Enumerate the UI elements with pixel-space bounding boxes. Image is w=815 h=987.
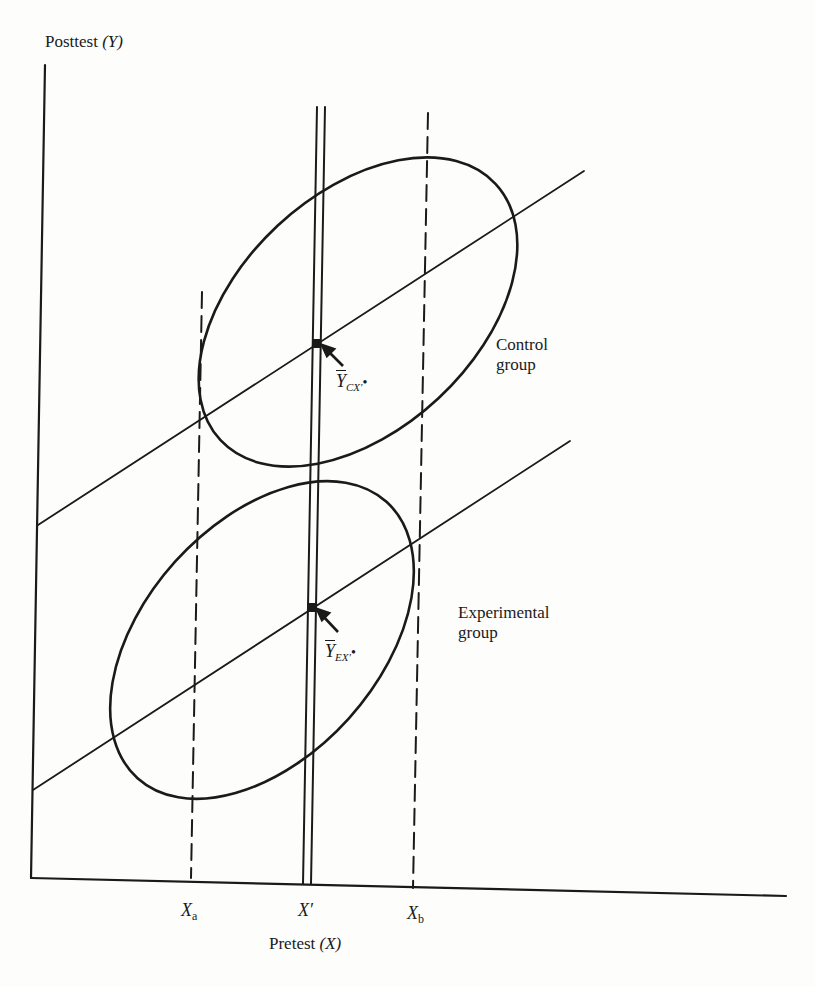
- experimental-group-ellipse: [51, 423, 474, 856]
- tick-x-prime-main: X′: [298, 900, 313, 920]
- y-axis-title-text: Posttest: [45, 32, 98, 51]
- control-adjusted-mean-label: YCX′•: [336, 371, 367, 393]
- tick-xa-sub: a: [192, 909, 197, 923]
- experimental-mean-symbol: Y: [325, 641, 335, 661]
- tick-xb-sub: b: [418, 912, 424, 926]
- experimental-adjusted-mean-marker: [307, 603, 316, 612]
- x-prime-line-right: [311, 107, 325, 884]
- experimental-mean-subscript: EX′: [335, 651, 351, 663]
- tick-xb-main: X: [407, 903, 418, 923]
- control-adjusted-mean-marker: [312, 339, 321, 348]
- control-group-label: Control group: [496, 335, 548, 375]
- x-axis: [31, 878, 786, 896]
- tick-x-prime: X′: [298, 900, 313, 921]
- tick-xb: Xb: [407, 903, 424, 927]
- diagram-canvas: [0, 0, 815, 987]
- experimental-mean-dot: •: [351, 645, 356, 660]
- x-axis-title-text: Pretest: [269, 934, 315, 953]
- ancova-diagram: Posttest (Y) Control group Experimental …: [0, 0, 815, 987]
- control-label-line2: group: [496, 355, 548, 375]
- experimental-adjusted-mean-label: YEX′•: [325, 641, 356, 663]
- x-prime-line-left: [303, 107, 317, 884]
- xa-dashed-line: [191, 292, 202, 878]
- control-label-line1: Control: [496, 335, 548, 355]
- experimental-label-line2: group: [458, 623, 550, 643]
- y-axis-title: Posttest (Y): [45, 32, 123, 52]
- x-axis-variable: (X): [320, 934, 342, 953]
- experimental-label-line1: Experimental: [458, 603, 550, 623]
- x-axis-title: Pretest (X): [269, 934, 341, 954]
- control-group-ellipse: [140, 97, 576, 526]
- tick-xa: Xa: [181, 900, 197, 924]
- experimental-arrowhead-icon: [317, 609, 329, 620]
- control-mean-dot: •: [362, 375, 367, 390]
- control-mean-subscript: CX′: [346, 381, 362, 393]
- xb-dashed-line: [413, 113, 428, 888]
- control-mean-symbol: Y: [336, 371, 346, 391]
- y-axis-variable: (Y): [102, 32, 123, 51]
- experimental-group-label: Experimental group: [458, 603, 550, 643]
- y-axis: [31, 65, 45, 878]
- tick-xa-main: X: [181, 900, 192, 920]
